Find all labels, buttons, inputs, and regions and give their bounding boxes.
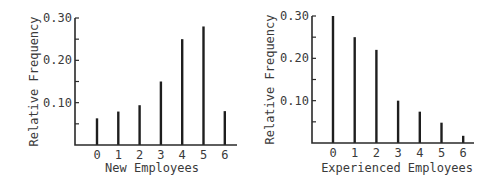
y-tick-label: 0.20: [43, 53, 72, 67]
x-tick-label: 2: [136, 148, 143, 162]
x-tick-labels: 0123456: [93, 148, 228, 162]
x-tick-label: 5: [200, 148, 207, 162]
y-axis-title: Relative Frequency: [27, 16, 41, 146]
x-tick-label: 4: [416, 146, 423, 160]
y-tick-labels: 0.100.200.30: [280, 9, 309, 108]
y-tick-label: 0.30: [280, 9, 309, 23]
x-tick-label: 3: [394, 146, 401, 160]
x-tick-label: 5: [438, 146, 445, 160]
x-tick-label: 1: [351, 146, 358, 160]
bars: [97, 26, 225, 145]
y-tick-label: 0.10: [43, 96, 72, 110]
x-tick-label: 2: [373, 146, 380, 160]
x-tick-label: 6: [460, 146, 467, 160]
y-tick-label: 0.20: [280, 51, 309, 65]
x-tick-label: 4: [179, 148, 186, 162]
y-tick-labels: 0.100.200.30: [43, 11, 72, 110]
axes: [75, 18, 237, 145]
chart-new-employees: Relative Frequency 0.100.200.30 0123456 …: [27, 11, 237, 175]
x-tick-label: 3: [157, 148, 164, 162]
x-axis-title: Experienced Employees: [321, 161, 473, 175]
x-tick-label: 6: [221, 148, 228, 162]
x-tick-label: 0: [329, 146, 336, 160]
y-tick-label: 0.10: [280, 94, 309, 108]
x-tick-label: 1: [115, 148, 122, 162]
axes: [312, 16, 474, 143]
charts-canvas: Relative Frequency 0.100.200.30 0123456 …: [0, 0, 504, 183]
x-tick-labels: 0123456: [329, 146, 466, 160]
x-tick-label: 0: [93, 148, 100, 162]
x-axis-title: New Employees: [105, 161, 199, 175]
chart-experienced-employees: Relative Frequency 0.100.200.30 0123456 …: [263, 9, 474, 175]
bars: [333, 16, 463, 143]
y-tick-label: 0.30: [43, 11, 72, 25]
y-axis-title: Relative Frequency: [263, 14, 277, 144]
